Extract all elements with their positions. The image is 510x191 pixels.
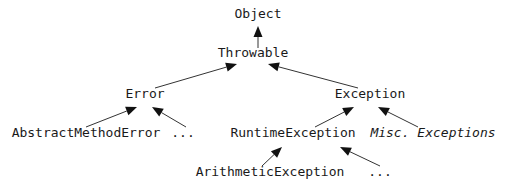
node-object: Object — [235, 6, 282, 21]
edge-abstract_method_error-to-error — [86, 107, 137, 127]
edge-runtime_exception-to-exception — [315, 107, 354, 127]
node-runtime-exception: RuntimeException — [230, 125, 355, 140]
arrowhead-icon — [125, 107, 137, 115]
arrowhead-icon — [340, 147, 352, 156]
edge-line — [279, 67, 358, 88]
node-throwable: Throwable — [218, 45, 289, 60]
class-nodes: ObjectThrowableErrorExceptionAbstractMet… — [12, 6, 496, 179]
arrowhead-icon — [268, 62, 280, 71]
node-runtime-more: ... — [368, 164, 391, 179]
arrowhead-icon — [342, 107, 354, 116]
node-abstract-method-error: AbstractMethodError — [12, 125, 161, 140]
edge-error-to-throwable — [155, 63, 237, 88]
edge-line — [155, 67, 226, 88]
arrowhead-icon — [254, 26, 263, 37]
arrowhead-icon — [378, 107, 390, 116]
node-error: Error — [125, 86, 164, 101]
edge-misc_exceptions-to-exception — [378, 107, 418, 127]
node-error-more: ... — [171, 125, 194, 140]
edge-exception-to-throwable — [268, 62, 358, 88]
edge-error_more-to-error — [152, 107, 186, 127]
node-arithmetic-exception: ArithmeticException — [196, 164, 345, 179]
arrowhead-icon — [225, 63, 237, 72]
node-exception: Exception — [335, 86, 405, 101]
class-hierarchy-diagram: ObjectThrowableErrorExceptionAbstractMet… — [0, 0, 510, 191]
arrowhead-icon — [152, 107, 164, 116]
node-misc-exceptions: Misc. Exceptions — [369, 125, 495, 140]
